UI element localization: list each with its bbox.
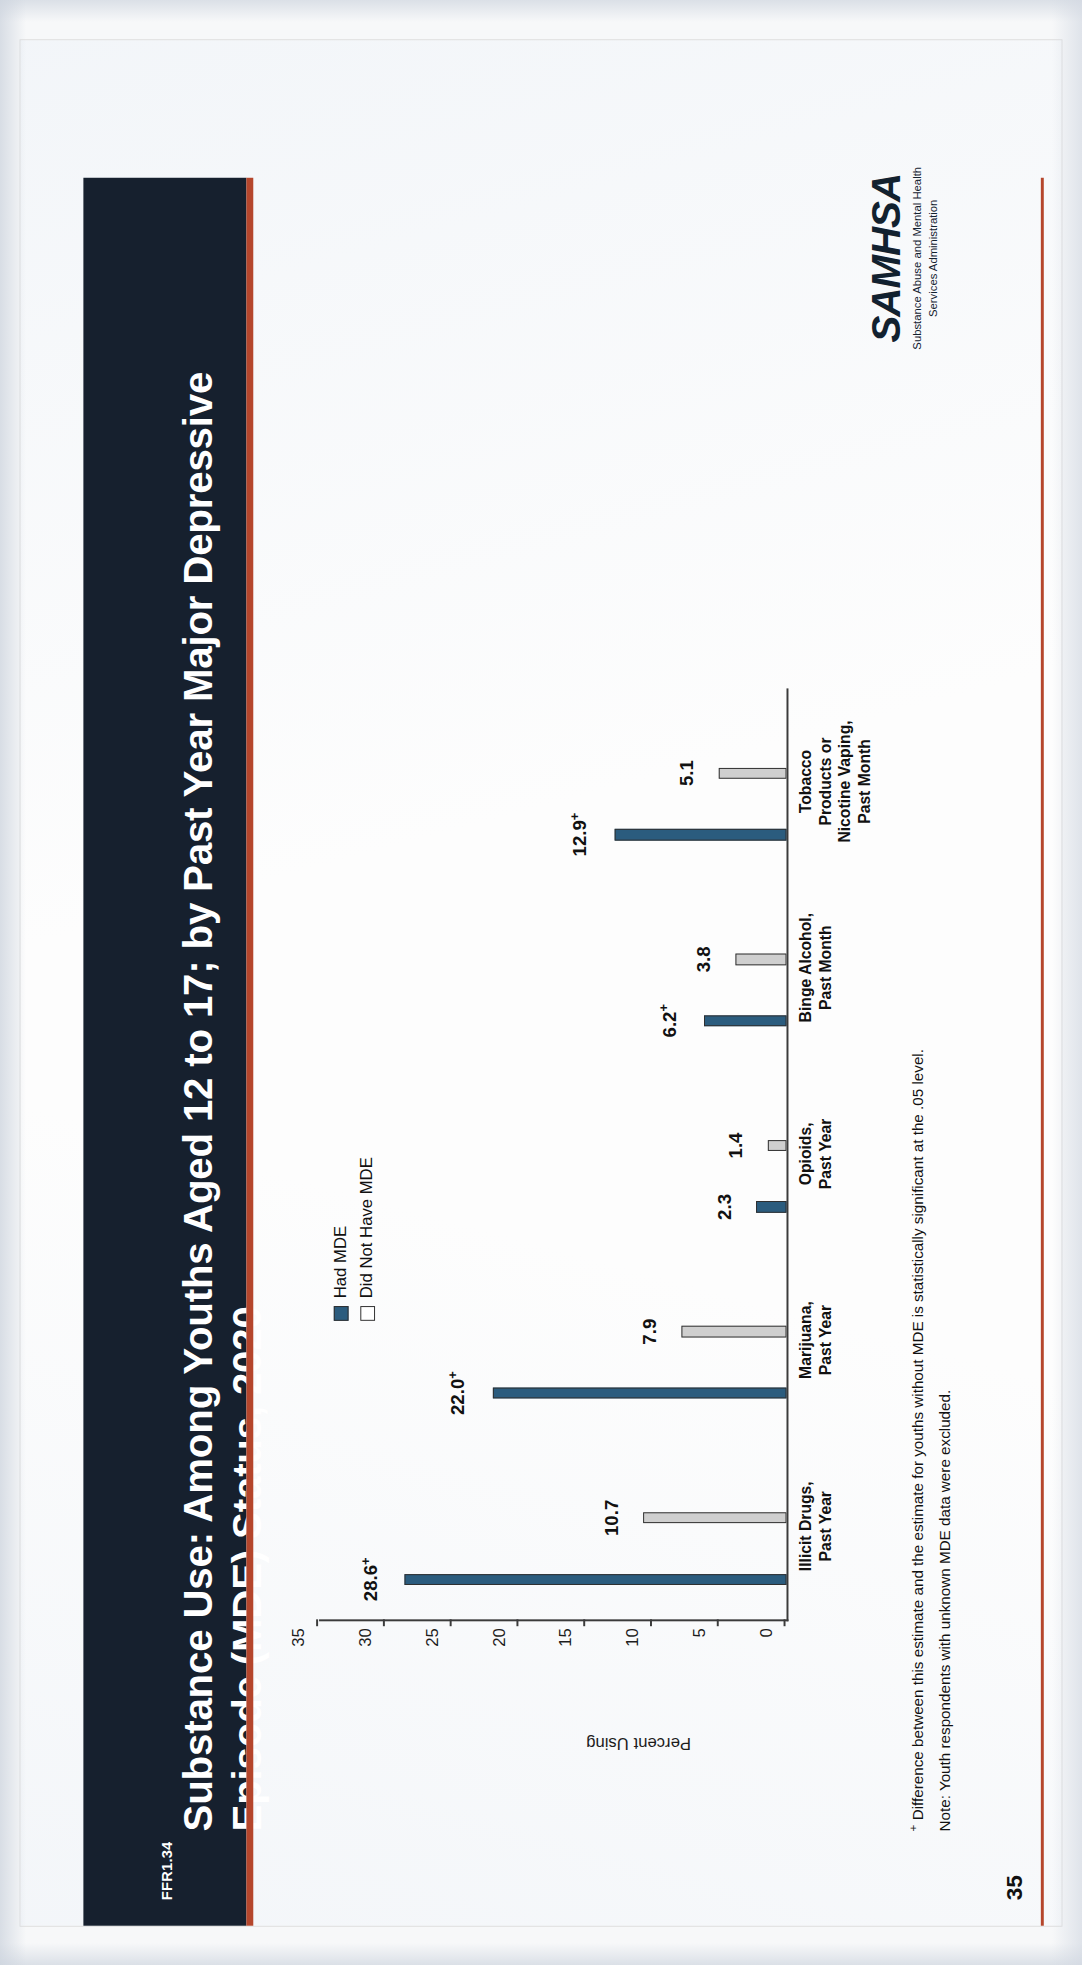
scanned-report-page: FFR1.34 Substance Use: Among Youths Aged… [21, 40, 1062, 1925]
y-axis-tick-label: 35 [290, 1628, 310, 1647]
bar-value-label: 2.3 [714, 1193, 736, 1219]
y-axis-title: Percent Using [586, 1733, 691, 1753]
y-axis-tick-mark [383, 1619, 385, 1626]
legend-swatch-had-mde [333, 1306, 348, 1321]
category-label: Opioids, Past Year [796, 1060, 835, 1247]
y-axis-tick-label: 10 [623, 1628, 643, 1647]
title-accent-rule [246, 177, 253, 1925]
page-title: Substance Use: Among Youths Aged 12 to 1… [174, 220, 272, 1830]
bottom-accent-rule [1041, 177, 1044, 1925]
bar-value-label: 6.2+ [657, 1004, 681, 1037]
bar-no-mde: 1.4 [768, 1139, 787, 1150]
legend-label-no-mde: Did Not Have MDE [357, 1157, 377, 1298]
y-axis-tick-label: 5 [690, 1628, 710, 1637]
footnote-note: Note: Youth respondents with unknown MDE… [933, 672, 957, 1831]
footnote-marker: + [906, 1824, 920, 1831]
samhsa-subtitle-line1: Substance Abuse and Mental Health [910, 110, 925, 405]
bar-had-mde: 6.2+ [704, 1015, 787, 1026]
legend-swatch-no-mde [360, 1306, 375, 1321]
samhsa-logo: SAMHSA Substance Abuse and Mental Health… [867, 110, 941, 405]
legend-item-had-mde: Had MDE [331, 1157, 351, 1321]
bar-no-mde: 5.1 [718, 767, 786, 778]
chart-legend: Had MDE Did Not Have MDE [331, 1157, 384, 1321]
page-number: 35 [1002, 1875, 1029, 1900]
samhsa-subtitle-line2: Services Administration [925, 110, 940, 405]
y-axis-tick-mark [784, 1619, 786, 1626]
category-label: Binge Alcohol, Past Month [796, 874, 835, 1061]
bar-had-mde: 28.6+ [405, 1573, 787, 1584]
bar-value-label: 1.4 [726, 1132, 748, 1158]
bar-value-label: 7.9 [639, 1318, 661, 1344]
legend-item-no-mde: Did Not Have MDE [357, 1157, 377, 1321]
y-axis-tick-mark [717, 1619, 719, 1626]
plot-area: 0510152025303528.6+10.7Illicit Drugs, Pa… [319, 688, 788, 1621]
bar-group: 12.9+5.1Tobacco Products or Nicotine Vap… [319, 688, 786, 874]
bar-group: 22.0+7.9Marijuana, Past Year [319, 1246, 786, 1432]
bar-value-label: 3.8 [694, 946, 716, 972]
y-axis-tick-mark [516, 1619, 518, 1626]
bar-no-mde: 3.8 [736, 953, 787, 964]
bar-value-label: 5.1 [676, 760, 698, 786]
footnotes: + Difference between this estimate and t… [904, 672, 959, 1831]
bar-no-mde: 7.9 [681, 1326, 787, 1337]
category-label: Illicit Drugs, Past Year [796, 1432, 835, 1619]
bar-chart: Percent Using 0510152025303528.6+10.7Ill… [311, 670, 861, 1736]
footnote-significance: + Difference between this estimate and t… [904, 672, 930, 1831]
bar-value-label: 28.6+ [358, 1557, 382, 1601]
legend-label-had-mde: Had MDE [331, 1225, 351, 1297]
category-label: Marijuana, Past Year [796, 1246, 835, 1433]
y-axis-tick-mark [583, 1619, 585, 1626]
y-axis-tick-label: 30 [356, 1628, 376, 1647]
samhsa-subtitle: Substance Abuse and Mental Health Servic… [910, 110, 940, 405]
footnote-significance-text: Difference between this estimate and the… [909, 1049, 926, 1820]
y-axis-tick-label: 15 [557, 1628, 577, 1647]
category-label: Tobacco Products or Nicotine Vaping, Pas… [796, 688, 875, 875]
bar-had-mde: 12.9+ [614, 828, 786, 839]
ffr-code-label: FFR1.34 [158, 1841, 175, 1900]
y-axis-tick-mark [450, 1619, 452, 1626]
bar-group: 6.2+3.8Binge Alcohol, Past Month [319, 874, 786, 1060]
bar-group: 2.31.4Opioids, Past Year [319, 1060, 786, 1246]
samhsa-wordmark: SAMHSA [867, 110, 907, 405]
bar-no-mde: 10.7 [644, 1512, 787, 1523]
bar-value-label: 12.9+ [567, 812, 591, 856]
y-axis-tick-label: 0 [757, 1628, 777, 1637]
bar-had-mde: 2.3 [756, 1201, 787, 1212]
bar-value-label: 22.0+ [446, 1371, 470, 1415]
bar-had-mde: 22.0+ [493, 1387, 787, 1398]
y-axis-tick-label: 25 [423, 1628, 443, 1647]
bar-value-label: 10.7 [601, 1499, 623, 1535]
y-axis-tick-mark [316, 1619, 318, 1626]
y-axis-tick-label: 20 [490, 1628, 510, 1647]
bar-group: 28.6+10.7Illicit Drugs, Past Year [319, 1433, 786, 1619]
y-axis-tick-mark [650, 1619, 652, 1626]
title-banner: FFR1.34 Substance Use: Among Youths Aged… [83, 177, 246, 1925]
